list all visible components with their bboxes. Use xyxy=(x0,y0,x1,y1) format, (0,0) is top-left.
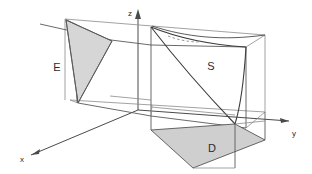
y-axis-line xyxy=(138,110,289,121)
region-label-E: E xyxy=(53,61,60,73)
axis-label-z: z xyxy=(128,9,132,18)
interior-rails xyxy=(110,96,265,124)
region-E-shape xyxy=(66,20,112,103)
x-axis-arrowhead xyxy=(31,149,40,155)
axis-group-z xyxy=(135,9,141,110)
z-axis-arrowhead xyxy=(135,9,141,19)
axis-label-y: y xyxy=(292,129,296,138)
axis-group-y xyxy=(138,110,289,123)
interior-rail-right xyxy=(235,121,265,124)
surface-S-group xyxy=(151,26,265,124)
x-axis-line xyxy=(31,110,138,155)
surface-S-hidden-dashed-curve xyxy=(168,36,200,42)
oblique-edge-bottom-right xyxy=(246,112,265,128)
front-bottom-edge-left xyxy=(78,103,151,116)
interior-rail-left xyxy=(110,96,151,100)
math-figure-canvas: E S D x y z xyxy=(0,0,312,174)
axis-label-x: x xyxy=(20,155,24,164)
figure-vector-graphic: E S D x y z xyxy=(0,0,312,174)
surface-S-right-boundary-curve xyxy=(235,47,246,124)
region-label-S: S xyxy=(207,60,214,72)
back-top-edge-left xyxy=(65,19,152,26)
region-D-group xyxy=(151,112,265,168)
axis-group-x xyxy=(31,110,138,155)
back-bottom-edge-left xyxy=(70,100,152,105)
region-E-group xyxy=(66,20,112,103)
region-label-D: D xyxy=(208,142,216,154)
front-top-edge-mid xyxy=(111,40,151,45)
